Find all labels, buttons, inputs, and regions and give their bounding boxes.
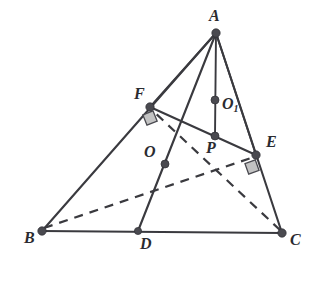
segment-AF: [150, 33, 216, 107]
point-label-P-text: P: [206, 139, 216, 156]
point-label-D: D: [140, 236, 152, 252]
point-label-O1: O1: [222, 96, 239, 112]
point-label-E-text: E: [266, 133, 277, 150]
segment-AE: [216, 33, 256, 155]
vertex-dot-B: [38, 227, 46, 235]
point-label-A-text: A: [209, 7, 220, 24]
geometry-figure: A F E B D C O1 P O: [0, 0, 328, 281]
vertex-dot-C: [278, 229, 286, 237]
point-label-F: F: [134, 86, 145, 102]
point-label-D-text: D: [140, 235, 152, 252]
segment-AP-through-O1: [215, 33, 216, 136]
vertex-dot-O: [161, 160, 169, 168]
right-angle-marker-at-E: [245, 160, 259, 174]
point-label-E: E: [266, 134, 277, 150]
point-label-C-text: C: [290, 231, 301, 248]
vertex-dot-A: [212, 29, 220, 37]
point-label-B-text: B: [24, 229, 35, 246]
vertex-dot-E: [252, 151, 260, 159]
point-label-O-text: O: [144, 143, 156, 160]
point-label-F-text: F: [134, 85, 145, 102]
point-label-A: A: [209, 8, 220, 24]
point-label-O1-subscript: 1: [234, 103, 239, 114]
segment-BC-through-D: [42, 231, 282, 233]
point-label-C: C: [290, 232, 301, 248]
segment-FE: [150, 107, 256, 155]
point-label-O1-text: O: [222, 95, 234, 112]
vertex-dot-O1: [211, 96, 219, 104]
vertex-dot-F: [146, 103, 154, 111]
point-label-O: O: [144, 144, 156, 160]
vertex-dot-D: [134, 227, 141, 234]
point-label-B: B: [24, 230, 35, 246]
point-label-P: P: [206, 140, 216, 156]
solid-edges: [42, 33, 282, 233]
right-angle-markers: [143, 111, 259, 174]
geometry-canvas: [0, 0, 328, 281]
